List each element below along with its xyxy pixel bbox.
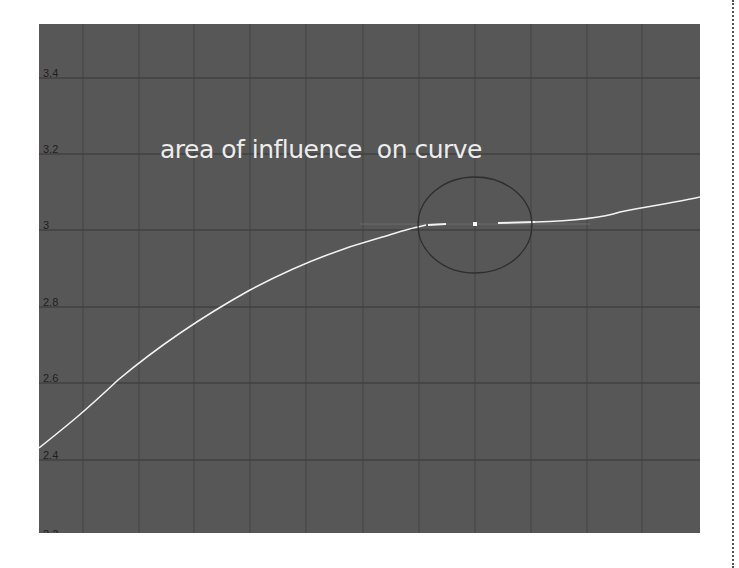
curve-segment-in-influence bbox=[428, 224, 446, 225]
graph-editor-panel[interactable]: 3.4 3.2 3 2.8 2.6 2.4 2.2 area of influe… bbox=[39, 24, 700, 533]
key-point-icon[interactable] bbox=[473, 222, 477, 226]
y-axis-label: 2.8 bbox=[43, 297, 58, 308]
vertical-grid-lines bbox=[83, 24, 642, 533]
y-axis-label: 2.2 bbox=[43, 529, 58, 533]
annotation-text: area of influence on curve bbox=[160, 135, 482, 164]
graph-canvas[interactable] bbox=[39, 24, 700, 533]
animation-curve-right bbox=[535, 197, 700, 222]
animation-curve bbox=[39, 227, 418, 448]
y-axis-label: 2.6 bbox=[43, 373, 58, 384]
y-axis-label: 3.2 bbox=[43, 144, 58, 155]
y-axis-label: 3.4 bbox=[43, 68, 58, 79]
curve-segment-in-influence bbox=[498, 222, 535, 223]
y-axis-label: 2.4 bbox=[43, 450, 58, 461]
dotted-divider bbox=[732, 0, 734, 568]
y-axis-label: 3 bbox=[43, 220, 49, 231]
